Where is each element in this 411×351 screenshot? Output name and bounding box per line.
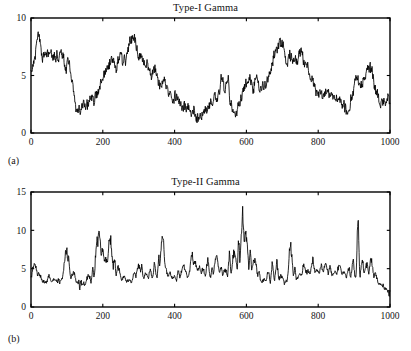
plot-b-canvas: 02004006008001000051015: [0, 175, 411, 351]
y-tick-label: 0: [21, 302, 26, 312]
x-tick-label: 800: [311, 311, 326, 321]
x-tick-label: 1000: [381, 137, 400, 147]
x-tick-label: 200: [96, 137, 111, 147]
panel-a-caption: (a): [8, 155, 19, 167]
x-tick-label: 400: [167, 311, 182, 321]
y-tick-label: 10: [17, 226, 27, 236]
plot-frame: [31, 18, 390, 133]
plot-frame: [31, 192, 390, 307]
panel-type-ii-gamma: Type-II Gamma 02004006008001000051015 (b…: [0, 175, 411, 351]
x-tick-label: 800: [311, 137, 326, 147]
x-tick-label: 200: [96, 311, 111, 321]
panel-type-i-gamma: Type-I Gamma 020040060080010000510 (a): [0, 0, 411, 175]
x-tick-label: 600: [239, 311, 254, 321]
y-tick-label: 5: [21, 264, 26, 274]
x-tick-label: 1000: [381, 311, 400, 321]
y-tick-label: 15: [17, 187, 27, 197]
x-tick-label: 0: [29, 311, 34, 321]
y-tick-label: 10: [17, 13, 27, 23]
y-tick-label: 5: [21, 71, 26, 81]
y-tick-label: 0: [21, 128, 26, 138]
x-tick-label: 400: [167, 137, 182, 147]
figure-container: Type-I Gamma 020040060080010000510 (a) T…: [0, 0, 411, 351]
data-series-line: [31, 32, 390, 123]
x-tick-label: 0: [29, 137, 34, 147]
panel-b-caption: (b): [8, 333, 20, 345]
data-series-line: [31, 206, 390, 296]
plot-a-canvas: 020040060080010000510: [0, 0, 411, 175]
x-tick-label: 600: [239, 137, 254, 147]
